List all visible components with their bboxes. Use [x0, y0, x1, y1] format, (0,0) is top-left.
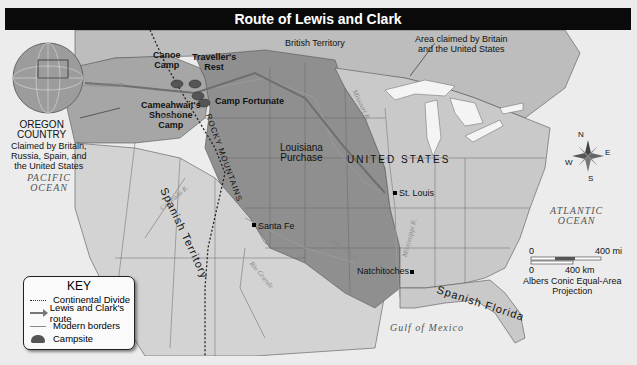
city-dot-natchitoches [410, 270, 414, 274]
map-key: KEY Continental Divide Lewis and Clark's… [23, 276, 135, 350]
key-item-route: Lewis and Clark's route [24, 306, 134, 319]
scale-mi-zero: 0 [529, 246, 534, 256]
key-item-campsite: Campsite [24, 332, 134, 345]
label-louisiana-purchase: Louisiana Purchase [280, 143, 323, 163]
label-gulf-of-mexico: Gulf of Mexico [390, 323, 464, 333]
campsite-icon [28, 334, 50, 344]
compass-e-label: E [605, 148, 610, 158]
campsite-shoshone [192, 92, 204, 100]
key-label: Modern borders [53, 320, 120, 331]
label-columbia-river: Columbia R. [90, 80, 125, 90]
globe-inset [13, 43, 83, 113]
label-canoe-camp: Canoe Camp [153, 50, 181, 70]
scale-bar-km [531, 261, 573, 264]
map-title: Route of Lewis and Clark [5, 8, 631, 30]
label-travellers-rest: Traveller's Rest [192, 52, 236, 72]
label-pacific-ocean: PACIFIC OCEAN [27, 173, 71, 193]
map-frame: Route of Lewis and Clark [5, 8, 631, 356]
scale-km-max: 400 km [565, 265, 595, 275]
scale-km-zero: 0 [529, 265, 534, 275]
key-label: Campsite [53, 333, 93, 344]
label-oregon-claim: Claimed by Britain, Russia, Spain, and t… [11, 141, 87, 171]
label-atlantic-ocean: ATLANTIC OCEAN [550, 206, 603, 226]
key-item-modern-borders: Modern borders [24, 319, 134, 332]
scale-mi-max: 400 mi [595, 246, 622, 256]
label-santa-fe: Santa Fe [258, 221, 295, 231]
city-dot-santa-fe [252, 223, 256, 227]
compass-w-label: W [565, 158, 573, 168]
label-natchitoches: Natchitoches [357, 266, 409, 276]
label-area-claimed: Area claimed by Britain and the United S… [415, 34, 508, 54]
arrow-icon [28, 308, 47, 318]
city-dot-st-louis [393, 191, 397, 195]
compass-s-label: S [588, 174, 593, 184]
label-camp-fortunate: Camp Fortunate [215, 96, 284, 106]
campsite-travellers-rest [189, 80, 201, 88]
campsite-canoe-camp [171, 80, 183, 88]
label-united-states: UNITED STATES [347, 155, 450, 165]
scale-projection: Albers Conic Equal-Area Projection [523, 276, 622, 296]
line-icon [28, 321, 50, 331]
key-title: KEY [24, 280, 134, 293]
compass-n-label: N [578, 130, 584, 140]
label-st-louis: St. Louis [399, 188, 434, 198]
label-british-territory: British Territory [285, 38, 345, 48]
dotted-line-icon [28, 295, 50, 305]
label-oregon-country: OREGON COUNTRY [17, 120, 66, 140]
